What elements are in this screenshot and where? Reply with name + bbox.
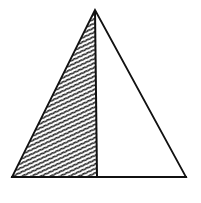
triangle-diagram <box>0 0 201 203</box>
